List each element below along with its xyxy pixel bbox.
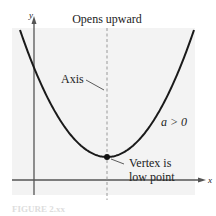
axis-label: Axis xyxy=(61,72,84,86)
parabola-diagram: y x Opens upward Axis a > 0 Vertex is lo… xyxy=(0,0,216,216)
vertex-point xyxy=(104,154,110,160)
vertex-label-line2: low point xyxy=(129,170,175,184)
figure-caption: FIGURE 2.xx xyxy=(12,204,66,214)
x-axis-label: x xyxy=(207,175,212,185)
title-label: Opens upward xyxy=(72,12,142,26)
vertex-label-line1: Vertex is xyxy=(129,156,172,170)
condition-label: a > 0 xyxy=(161,115,187,129)
y-axis-label: y xyxy=(28,10,33,20)
x-axis-arrow-icon xyxy=(198,178,206,183)
